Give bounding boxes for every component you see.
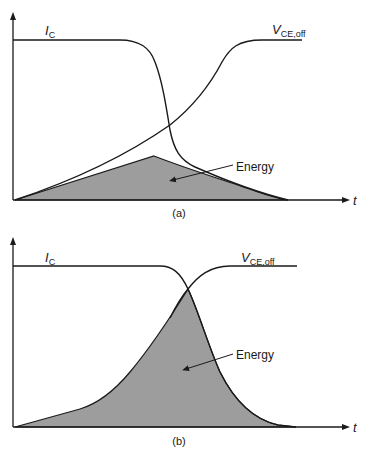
energy-label-a: Energy [236,160,274,174]
vce-label-b: VCE,off [241,250,275,267]
caption-b: (b) [172,435,185,447]
ic-label-a: IC [45,23,56,40]
energy-label-b: Energy [236,348,274,362]
switching-loss-diagram: IC VCE,off Energy t (a) IC VCE,off Energ… [0,0,373,455]
caption-a: (a) [172,207,185,219]
vce-label-a: VCE,off [272,22,306,39]
t-axis-label-a: t [353,193,358,208]
panel-b: IC VCE,off Energy t (b) [13,241,358,447]
ic-label-b: IC [45,250,56,267]
t-axis-label-b: t [353,420,358,435]
panel-a: IC VCE,off Energy t (a) [13,16,358,219]
